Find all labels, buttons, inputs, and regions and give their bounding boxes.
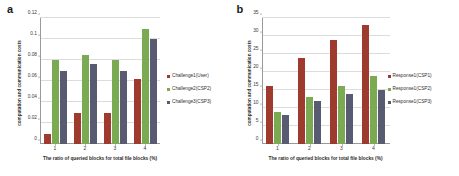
- x-axis-title-a: The ratio of queried blocks for total fi…: [20, 156, 180, 161]
- y-axis-title-a: computation and communication costs: [14, 18, 26, 148]
- y-tick-label: 0.12: [28, 11, 37, 16]
- y-tick-label: 35: [253, 11, 258, 16]
- bar: [82, 55, 89, 144]
- y-tick-label: 0: [256, 137, 259, 142]
- x-tick-label: 1: [54, 146, 57, 151]
- bar-group: 3: [326, 18, 358, 144]
- chart-panel-b: b computation and communication costs 05…: [230, 0, 459, 176]
- bar: [44, 134, 51, 145]
- legend-b: Response1(CSP1)Response1(CSP2)Response1(…: [388, 74, 432, 105]
- bar: [330, 40, 337, 144]
- panel-letter-a: a: [7, 4, 13, 15]
- bar: [378, 90, 385, 144]
- x-tick-label: 2: [84, 146, 87, 151]
- y-tick-label: 0.04: [28, 95, 37, 100]
- bar: [104, 113, 111, 145]
- y-tick-label: 25: [253, 47, 258, 52]
- legend-label: Challenge3(CSP3): [172, 100, 211, 105]
- x-tick-label: 4: [144, 146, 147, 151]
- x-tick-label: 3: [114, 146, 117, 151]
- legend-swatch-icon: [167, 101, 170, 104]
- y-tick-label: 10: [253, 101, 258, 106]
- bar: [314, 101, 321, 144]
- legend-item[interactable]: Challenge1(User): [167, 74, 211, 79]
- panel-letter-b: b: [237, 4, 244, 15]
- figure-container: a computation and communication costs 00…: [0, 0, 459, 176]
- y-tick-label: 0.1: [30, 32, 37, 37]
- chart-panel-a: a computation and communication costs 00…: [0, 0, 230, 176]
- bar: [298, 58, 305, 144]
- bar: [338, 86, 345, 144]
- bar: [282, 115, 289, 144]
- bar-group: 1: [262, 18, 294, 144]
- bar: [150, 39, 157, 144]
- bar: [52, 60, 59, 144]
- legend-swatch-icon: [388, 101, 391, 104]
- y-tick-label: 0.06: [28, 74, 37, 79]
- legend-item[interactable]: Challenge2(CSP2): [167, 87, 211, 92]
- legend-label: Response1(CSP1): [393, 74, 432, 79]
- bar-groups-a: 1234: [40, 18, 160, 144]
- bar-group: 3: [100, 18, 130, 144]
- bar: [120, 71, 127, 145]
- bar: [266, 86, 273, 144]
- y-tick-label: 0.02: [28, 116, 37, 121]
- legend-item[interactable]: Response1(CSP1): [388, 74, 432, 79]
- legend-item[interactable]: Response1(CSP2): [388, 87, 432, 92]
- y-tick-label: 5: [256, 119, 259, 124]
- y-tick-label: 0: [34, 137, 37, 142]
- plot-area-a: 00.020.040.060.080.10.12 1234: [40, 18, 160, 144]
- legend-label: Challenge1(User): [172, 74, 209, 79]
- bar: [142, 29, 149, 145]
- x-tick-label: 1: [276, 146, 279, 151]
- bar-group: 4: [130, 18, 160, 144]
- x-tick-label: 4: [372, 146, 375, 151]
- legend-swatch-icon: [388, 75, 391, 78]
- plot-area-b: 05101520253035 1234: [262, 18, 390, 144]
- bar-group: 2: [294, 18, 326, 144]
- bar: [60, 71, 67, 145]
- legend-item[interactable]: Challenge3(CSP3): [167, 100, 211, 105]
- bar-groups-b: 1234: [262, 18, 390, 144]
- bar: [74, 113, 81, 145]
- legend-label: Response1(CSP2): [393, 87, 432, 92]
- x-tick-label: 3: [340, 146, 343, 151]
- x-tick-label: 2: [308, 146, 311, 151]
- bar: [346, 94, 353, 144]
- bar: [134, 79, 141, 144]
- y-tick-label: 15: [253, 83, 258, 88]
- y-tick-label: 0.08: [28, 53, 37, 58]
- y-tick-mark: [260, 13, 262, 14]
- bar: [306, 97, 313, 144]
- bar: [362, 25, 369, 144]
- legend-swatch-icon: [388, 88, 391, 91]
- bar: [112, 60, 119, 144]
- legend-a: Challenge1(User)Challenge2(CSP2)Challeng…: [167, 74, 211, 105]
- bar: [370, 76, 377, 144]
- legend-label: Challenge2(CSP2): [172, 87, 211, 92]
- bar-group: 4: [358, 18, 390, 144]
- legend-item[interactable]: Response1(CSP3): [388, 100, 432, 105]
- legend-swatch-icon: [167, 88, 170, 91]
- y-tick-label: 20: [253, 65, 258, 70]
- bar: [90, 64, 97, 144]
- x-axis-title-b: The ratio of queried blocks for total fi…: [246, 156, 406, 161]
- y-tick-label: 30: [253, 29, 258, 34]
- legend-label: Response1(CSP3): [393, 100, 432, 105]
- legend-swatch-icon: [167, 75, 170, 78]
- bar: [274, 112, 281, 144]
- y-tick-mark: [38, 13, 40, 14]
- bar-group: 1: [40, 18, 70, 144]
- bar-group: 2: [70, 18, 100, 144]
